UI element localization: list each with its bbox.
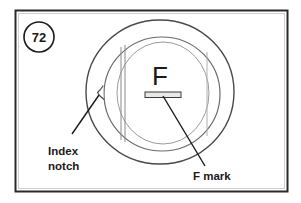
- step-number-label: 72: [32, 30, 46, 45]
- diagram-canvas: F 72 Index notch F mark: [0, 0, 301, 203]
- f-mark-label: F mark: [193, 170, 231, 182]
- technical-diagram-figure: F 72 Index notch F mark: [0, 0, 301, 203]
- index-notch-label-line1: Index: [48, 145, 79, 157]
- index-notch-label-line2: notch: [48, 160, 79, 172]
- f-letter-marking: F: [152, 61, 168, 91]
